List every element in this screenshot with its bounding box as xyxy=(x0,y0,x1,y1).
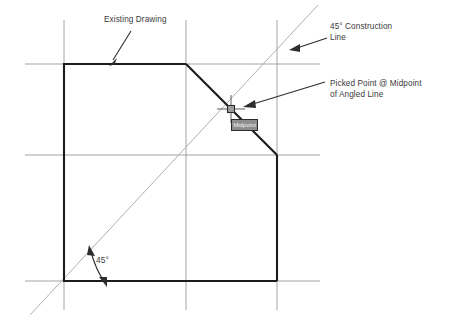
leader-picked-point xyxy=(243,82,325,108)
annotation-picked-point: Picked Point @ Midpoint of Angled Line xyxy=(330,79,422,100)
cad-drawing-svg xyxy=(0,0,456,335)
leader-line-existing-drawing xyxy=(113,31,131,60)
leader-construction-line xyxy=(289,38,327,52)
cad-diagram-canvas: Existing Drawing 45° Construction Line P… xyxy=(0,0,456,335)
leader-existing-drawing xyxy=(109,31,131,66)
snap-square-icon xyxy=(228,106,235,113)
leader-line-picked-point xyxy=(253,82,325,104)
annotation-construction-line: 45° Construction Line xyxy=(330,22,392,43)
annotation-angle-value: 45° xyxy=(96,255,109,266)
midpoint-snap-tooltip: Midpoint xyxy=(231,119,258,131)
leader-line-construction-line xyxy=(297,38,327,48)
construction-line-45-degree xyxy=(30,5,318,315)
annotation-existing-drawing: Existing Drawing xyxy=(104,15,167,26)
existing-drawing-shape xyxy=(63,63,277,281)
leader-arrowhead-construction-line xyxy=(289,44,300,52)
leader-arrowhead-picked-point xyxy=(243,100,256,108)
